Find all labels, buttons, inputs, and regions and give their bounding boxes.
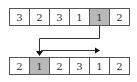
bottom-cell-3: 3 <box>70 58 90 74</box>
bottom-cell-0: 2 <box>10 58 30 74</box>
arrow-right-icon <box>95 48 100 54</box>
bottom-cell-2: 2 <box>50 58 70 74</box>
bottom-cell-5: 2 <box>110 58 130 74</box>
bottom-cell-1-highlighted: 1 <box>30 58 50 74</box>
bottom-cell-4: 1 <box>90 58 110 74</box>
arrow-down-icon <box>36 51 43 56</box>
bottom-array: 2 1 2 3 1 2 <box>9 57 130 75</box>
move-connector <box>40 25 100 53</box>
